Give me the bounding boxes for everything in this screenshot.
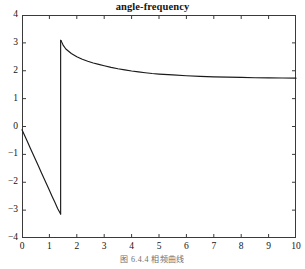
plot-svg xyxy=(22,15,296,238)
y-tick-label: −3 xyxy=(8,205,18,215)
plot-area: −4−3−2−101234 012345678910 xyxy=(22,15,296,238)
x-tick-label: 6 xyxy=(184,242,189,252)
x-tick-label: 7 xyxy=(211,242,216,252)
y-tick-label: 3 xyxy=(13,38,18,48)
chart-title: angle-frequency xyxy=(0,0,305,13)
figure-caption: 图 6.4.4 相频曲线 xyxy=(0,255,305,265)
data-series xyxy=(22,40,296,214)
y-tick-label: 4 xyxy=(13,10,18,20)
y-tick-label: −1 xyxy=(8,150,18,160)
figure-container: angle-frequency −4−3−2−101234 0123456789… xyxy=(0,0,305,269)
x-tick-label: 1 xyxy=(47,242,52,252)
x-tick-label: 0 xyxy=(20,242,25,252)
x-tick-label: 3 xyxy=(102,242,107,252)
x-tick-label: 2 xyxy=(74,242,79,252)
y-tick-label: 1 xyxy=(13,94,18,104)
y-tick-label: 0 xyxy=(13,122,18,132)
x-tick-label: 4 xyxy=(129,242,134,252)
x-tick-label: 10 xyxy=(291,242,301,252)
y-tick-label: 2 xyxy=(13,66,18,76)
x-tick-label: 9 xyxy=(266,242,271,252)
x-tick-label: 8 xyxy=(239,242,244,252)
x-tick-label: 5 xyxy=(157,242,162,252)
series-line xyxy=(22,130,61,214)
axis-ticks xyxy=(22,15,296,238)
series-line xyxy=(61,40,296,78)
y-tick-label: −4 xyxy=(8,233,18,243)
y-tick-label: −2 xyxy=(8,178,18,188)
